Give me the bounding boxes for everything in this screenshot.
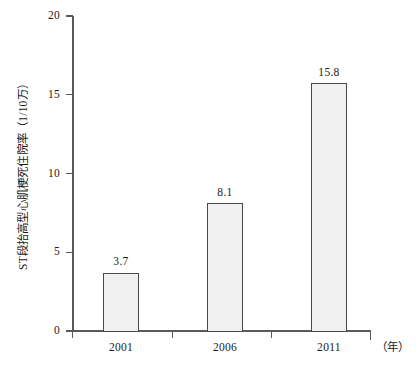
bar-value-2006: 8.1: [195, 186, 255, 198]
x-category-label-2011: 2011: [299, 341, 359, 353]
bar-2011: [311, 83, 347, 332]
x-tick-mark: [72, 331, 73, 338]
bar-value-2011: 15.8: [299, 66, 359, 78]
bar-2006: [207, 203, 243, 332]
x-axis-unit-label: （年）: [376, 341, 409, 353]
x-category-label-2006: 2006: [195, 341, 255, 353]
x-axis-end-tick: [370, 331, 371, 340]
bar-chart: 0 5 10 15 20 3.7 2001 8.1 2006 15.8 2011…: [0, 0, 418, 365]
y-axis-title: ST段抬高型心肌梗死住院率（1/10万）: [17, 19, 29, 329]
y-tick-mark: [66, 94, 73, 95]
bar-2001: [103, 273, 139, 332]
y-tick-mark: [66, 15, 73, 16]
x-tick-mark: [172, 331, 173, 338]
bar-value-2001: 3.7: [91, 255, 151, 267]
y-tick-mark: [66, 173, 73, 174]
y-tick-mark: [66, 252, 73, 253]
x-tick-mark: [271, 331, 272, 338]
x-category-label-2001: 2001: [91, 341, 151, 353]
